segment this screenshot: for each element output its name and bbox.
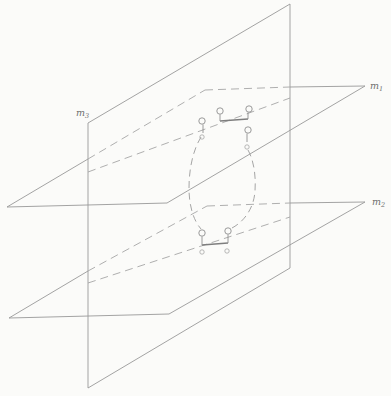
- plane-m1-left-edge-hidden: [88, 90, 205, 159]
- loop-marker-bottom-f: [225, 228, 231, 234]
- curve-right-strand: [230, 150, 255, 229]
- curve-left-strand: [189, 137, 201, 229]
- figure-canvas: m3m1m2: [0, 0, 391, 396]
- plane-m2-back-edge-hidden: [207, 203, 290, 206]
- plane-m1-right-edge: [167, 86, 365, 203]
- top-connector-segment: [220, 119, 248, 121]
- point-marker-bottom-f: [225, 249, 229, 253]
- plane-m1-trace-line: [88, 98, 290, 172]
- loop-marker-top-c: [246, 106, 252, 112]
- space-curve-layer: [189, 137, 255, 229]
- curve-markers-layer: [199, 106, 252, 254]
- plane-m3-top-edge: [88, 4, 290, 123]
- label-m3: m3: [76, 107, 89, 120]
- point-marker-top-d: [245, 145, 249, 149]
- plane-m1-front-edge: [7, 203, 167, 207]
- plane-m2-back-edge-visible: [290, 202, 365, 203]
- loop-marker-bottom-e: [199, 230, 205, 236]
- plane-m1-back-edge-hidden: [205, 87, 290, 90]
- point-marker-top-a: [200, 135, 204, 139]
- plane-solid-edges-layer: [7, 4, 365, 388]
- loop-marker-top-d: [245, 127, 251, 133]
- plane-m2-left-edge-hidden: [88, 206, 207, 271]
- planes-and-curve-diagram: m3m1m2: [0, 0, 391, 396]
- plane-m3-bottom-edge: [88, 268, 290, 388]
- plane-m2-right-edge: [169, 202, 365, 314]
- point-marker-bottom-e: [200, 250, 204, 254]
- label-m2: m2: [372, 196, 385, 209]
- plane-m2-left-edge-visible: [9, 271, 88, 318]
- loop-marker-top-a: [199, 118, 205, 124]
- plane-m1-back-edge-visible: [290, 86, 365, 87]
- label-m1: m1: [370, 80, 383, 93]
- plane-m2-front-edge: [9, 314, 169, 318]
- plane-m2-trace-line: [88, 217, 290, 283]
- plane-m1-left-edge-visible: [7, 159, 88, 207]
- plane-labels-layer: m3m1m2: [76, 80, 385, 209]
- bottom-connector-segment: [202, 243, 228, 245]
- loop-marker-top-b: [217, 108, 223, 114]
